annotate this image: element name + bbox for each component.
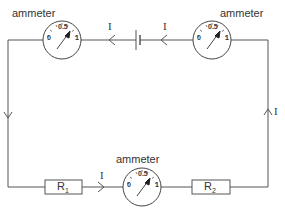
scale-min: 0	[127, 181, 131, 188]
resistor-label: R2	[204, 180, 216, 194]
resistor-symbol: R	[204, 180, 212, 192]
resistor-subscript: 1	[65, 187, 69, 194]
ammeter-label: ammeter	[220, 7, 263, 19]
scale-mid: 0.5	[138, 170, 148, 177]
ammeter-label: ammeter	[116, 153, 159, 165]
resistor-subscript: 2	[212, 187, 216, 194]
scale-mid: 0.5	[58, 23, 68, 30]
scale-max: 1	[225, 34, 229, 41]
resistor-label: R1	[57, 180, 69, 194]
scale-min: 0	[47, 34, 51, 41]
current-label: I	[100, 169, 104, 181]
scale-min: 0	[197, 34, 201, 41]
scale-mid: 0.5	[208, 23, 218, 30]
scale-max: 1	[155, 181, 159, 188]
current-label: I	[108, 20, 112, 32]
circuit-diagram	[0, 0, 285, 211]
ammeter-label: ammeter	[12, 7, 55, 19]
current-label: I	[163, 20, 167, 32]
current-label: I	[274, 105, 278, 117]
resistor-symbol: R	[57, 180, 65, 192]
scale-max: 1	[75, 34, 79, 41]
